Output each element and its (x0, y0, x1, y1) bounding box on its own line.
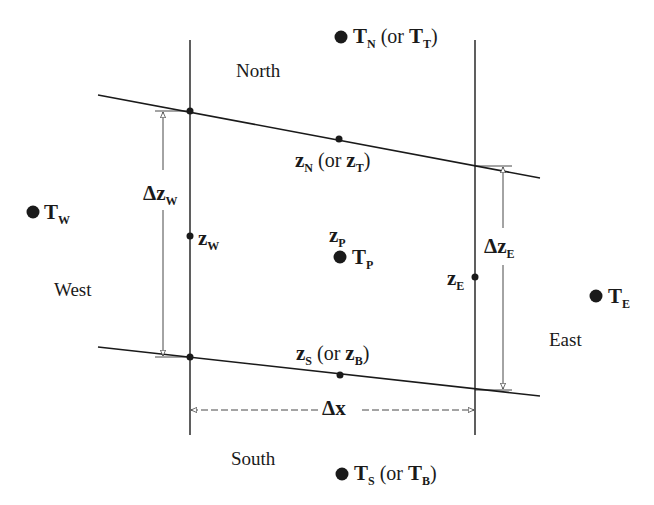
west-label: West (54, 280, 92, 299)
z-north-label: zN (or zT) (295, 150, 370, 174)
t-south-node (336, 468, 349, 481)
t-east-node (590, 290, 603, 303)
t-west-label: TW (44, 202, 70, 226)
z-south-point (337, 372, 344, 379)
z-center-label: zP (329, 225, 346, 249)
t-center-node (334, 251, 347, 264)
z-east-label: zE (447, 268, 464, 292)
t-east-label: TE (608, 286, 630, 310)
dz-west-label: ΔzW (143, 183, 178, 207)
dz-east-label: ΔzE (484, 236, 515, 260)
z-north-point (336, 136, 343, 143)
z-west-label: zW (198, 228, 219, 252)
z-west-point (187, 233, 194, 240)
south-label: South (231, 449, 275, 468)
z-east-point (472, 274, 479, 281)
z-south-label: zS (or zB) (296, 343, 369, 367)
east-label: East (549, 330, 582, 349)
t-south-label: TS (or TB) (354, 463, 437, 487)
t-north-label: TN (or TT) (353, 26, 438, 50)
t-north-node (335, 31, 348, 44)
t-center-label: TP (352, 247, 373, 271)
north-label: North (236, 61, 280, 80)
t-west-node (27, 206, 40, 219)
control-volume-diagram (0, 0, 654, 505)
dx-label: Δx (322, 398, 346, 419)
